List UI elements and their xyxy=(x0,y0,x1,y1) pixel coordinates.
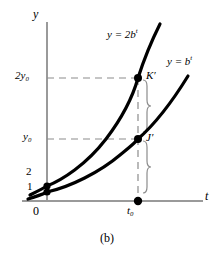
y-tick-2y0-subscript: 0 xyxy=(25,75,28,82)
figure-caption: (b) xyxy=(100,232,114,244)
lower-curve-equation-exponent: t xyxy=(190,54,192,61)
curve-upper xyxy=(30,24,160,195)
point-J-marker xyxy=(134,135,142,143)
lower-curve-equation-base: y = b xyxy=(167,55,190,67)
y-tick-2y0-base: 2y xyxy=(15,69,25,81)
y-tick-y0-subscript: 0 xyxy=(28,136,31,143)
upper-curve-intercept-label: 2 xyxy=(26,166,32,177)
y-tick-label-y0: y0 xyxy=(23,131,31,142)
lower-curve-equation-label: y = bt xyxy=(167,56,192,67)
point-t0-marker xyxy=(134,197,142,205)
y-axis-label: y xyxy=(33,8,38,20)
upper-curve-equation-base: y = 2b xyxy=(107,28,136,40)
lower-curve-intercept-label: 1 xyxy=(27,181,33,192)
x-tick-label-t0: t0 xyxy=(127,205,133,216)
upper-curve-equation-label: y = 2bt xyxy=(107,29,138,40)
origin-label: 0 xyxy=(33,205,39,217)
point-J-label: J′ xyxy=(146,132,153,143)
t-axis-label: t xyxy=(205,190,208,202)
point-K-label: K′ xyxy=(146,70,156,81)
brace-lower-interval xyxy=(143,141,151,193)
point-K-prime: ′ xyxy=(153,69,155,81)
brace-upper-interval xyxy=(143,80,151,132)
point-K-marker xyxy=(134,74,142,82)
intercept-1-marker xyxy=(43,188,50,195)
point-J-prime: ′ xyxy=(151,131,153,143)
x-tick-t0-subscript: 0 xyxy=(130,210,133,217)
y-tick-label-2y0: 2y0 xyxy=(15,70,29,81)
upper-curve-equation-exponent: t xyxy=(136,27,138,34)
exponential-growth-figure: y t 2y0 y0 0 t0 2 1 y = 2bt y = bt K′ J′… xyxy=(0,0,221,255)
